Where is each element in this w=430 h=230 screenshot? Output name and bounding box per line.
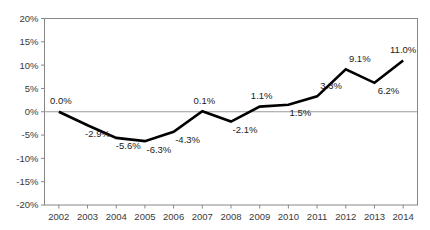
- x-tick-label: 2006: [163, 211, 184, 222]
- data-point-label: 3.3%: [320, 80, 342, 91]
- data-point-label: 0.0%: [50, 95, 72, 106]
- x-tick-label: 2014: [393, 211, 414, 222]
- x-tick-label: 2005: [134, 211, 155, 222]
- line-chart: 20%15%10%5%0%-5%-10%-15%-20% 20022003200…: [0, 0, 430, 230]
- data-point-label: 11.0%: [390, 44, 417, 55]
- x-tick-label: 2004: [106, 211, 127, 222]
- y-tick-label: 5%: [25, 83, 39, 94]
- x-tick-label: 2003: [77, 211, 98, 222]
- data-point-label: -5.6%: [116, 140, 141, 151]
- x-tick-label: 2002: [48, 211, 69, 222]
- data-point-label: 1.5%: [290, 107, 312, 118]
- x-tick-label: 2012: [335, 211, 356, 222]
- y-tick-label: 20%: [19, 13, 39, 24]
- y-tick-label: -15%: [16, 176, 39, 187]
- chart-canvas: 20%15%10%5%0%-5%-10%-15%-20% 20022003200…: [0, 0, 430, 230]
- data-point-label: -2.9%: [85, 128, 110, 139]
- data-point-label: -4.3%: [175, 134, 200, 145]
- y-tick-label: 0%: [25, 106, 39, 117]
- x-tick-label: 2007: [192, 211, 213, 222]
- x-tick-label: 2010: [278, 211, 299, 222]
- x-tick-label: 2009: [249, 211, 270, 222]
- data-point-label: 0.1%: [193, 95, 215, 106]
- data-point-label: 6.2%: [378, 85, 400, 96]
- x-tick-label: 2013: [364, 211, 385, 222]
- y-tick-label: -10%: [16, 153, 39, 164]
- data-point-label: 1.1%: [251, 90, 273, 101]
- data-point-label: -6.3%: [147, 144, 172, 155]
- data-point-label: -2.1%: [233, 124, 258, 135]
- x-tick-label: 2008: [220, 211, 241, 222]
- y-tick-label: 10%: [19, 60, 39, 71]
- y-tick-label: -20%: [16, 199, 39, 210]
- y-tick-label: -5%: [22, 129, 39, 140]
- data-point-label: 9.1%: [349, 53, 371, 64]
- x-tick-label: 2011: [307, 211, 327, 222]
- y-tick-label: 15%: [19, 36, 39, 47]
